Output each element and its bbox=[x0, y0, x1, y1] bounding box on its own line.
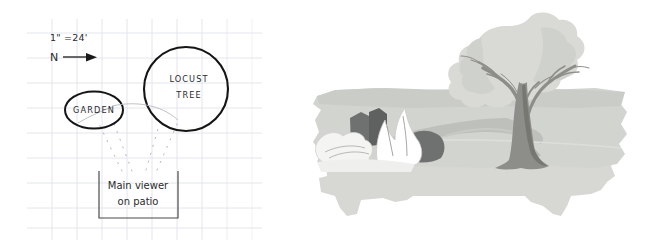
viewer-box-label-line2: on patio bbox=[118, 196, 159, 207]
viewer-box-shape bbox=[99, 171, 178, 218]
site-plan-panel: 1" =24' N GARDEN bbox=[0, 0, 300, 249]
figure-root: 1" =24' N GARDEN bbox=[0, 0, 649, 249]
perspective-view-panel bbox=[295, 0, 649, 249]
garden-label: GARDEN bbox=[73, 105, 115, 115]
north-label: N bbox=[50, 51, 58, 64]
locust-tree-shape bbox=[112, 47, 228, 131]
locust-tree-label-line2: TREE bbox=[175, 90, 201, 100]
viewer-box-label-line1: Main viewer bbox=[108, 180, 169, 191]
scale-note: 1" =24' bbox=[50, 32, 88, 43]
sight-lines bbox=[97, 120, 178, 171]
north-arrow-icon bbox=[63, 53, 97, 62]
locust-tree-label-line1: LOCUST bbox=[169, 74, 208, 84]
